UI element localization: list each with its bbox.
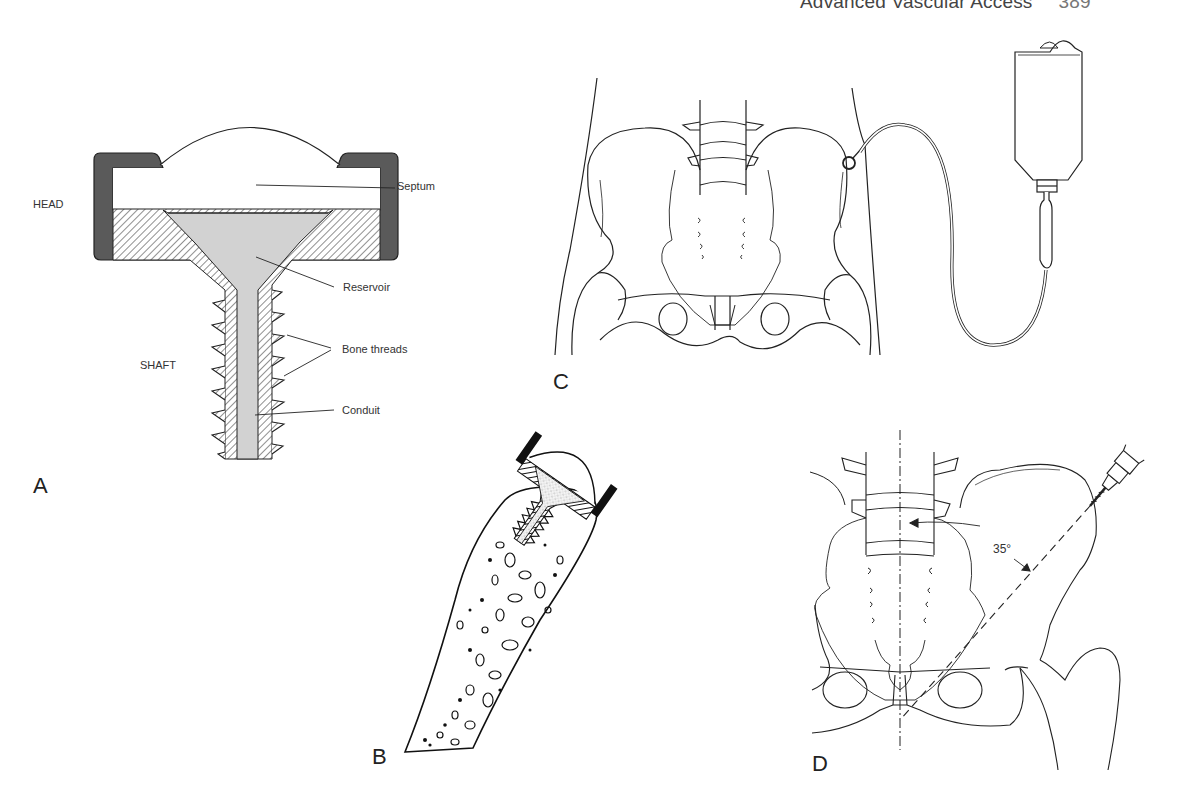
callout-reservoir: Reservoir [343,281,390,293]
figure-artwork [0,0,1184,798]
callout-conduit: Conduit [342,404,380,416]
panel-c-pelvis-with-iv [555,41,1082,355]
callout-bone-threads: Bone threads [342,343,407,355]
panel-letter-d: D [812,751,828,777]
panel-b-device-in-bone [405,429,619,752]
panel-d-insertion-angle [810,430,1144,770]
panel-letter-c: C [553,369,569,395]
label-head: HEAD [33,198,64,210]
angle-label: 35° [993,542,1011,556]
panel-letter-b: B [372,744,387,770]
callout-septum: Septum [397,180,435,192]
panel-letter-a: A [33,473,48,499]
label-shaft: SHAFT [140,359,176,371]
